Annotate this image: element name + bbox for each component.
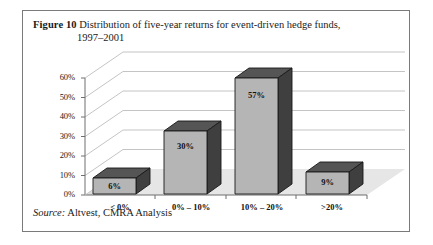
- bar-value-label-3: 57%: [235, 91, 278, 100]
- bar-value-label-2: 30%: [164, 142, 207, 151]
- bar-column-2: [164, 121, 221, 194]
- bar-value-label-1: 6%: [93, 182, 136, 191]
- chart-plot-area: 60% 50% 40% 30% 20% 10% 0% 6% 30% 57% 9%…: [23, 47, 409, 212]
- ytick-label-0: 0%: [45, 190, 75, 199]
- xtick-label-4: >20%: [297, 202, 367, 212]
- bar-value-label-4: 9%: [306, 178, 349, 187]
- source-label: Source:: [33, 207, 65, 218]
- bar-column-3: [235, 68, 292, 194]
- figure-source: Source: Altvest, CMRA Analysis: [33, 207, 172, 218]
- source-value: Altvest, CMRA Analysis: [67, 207, 172, 218]
- ytick-label-30: 30%: [45, 132, 75, 141]
- ytick-label-60: 60%: [45, 73, 75, 82]
- ytick-label-40: 40%: [45, 112, 75, 121]
- xtick-label-3: 10% – 20%: [227, 202, 297, 212]
- bar-chart-3d: [23, 47, 409, 212]
- figure-caption-line-2: 1997–2001: [77, 31, 401, 44]
- bar-2-side: [207, 121, 221, 194]
- figure-number: Figure 10: [33, 19, 77, 30]
- ytick-label-50: 50%: [45, 93, 75, 102]
- ytick-label-20: 20%: [45, 151, 75, 160]
- figure-frame: Figure 10 Distribution of five-year retu…: [22, 10, 410, 232]
- figure-caption-line-1: Distribution of five-year returns for ev…: [79, 19, 340, 30]
- figure-caption: Figure 10 Distribution of five-year retu…: [33, 18, 401, 44]
- ytick-label-10: 10%: [45, 171, 75, 180]
- bar-3-side: [278, 68, 292, 194]
